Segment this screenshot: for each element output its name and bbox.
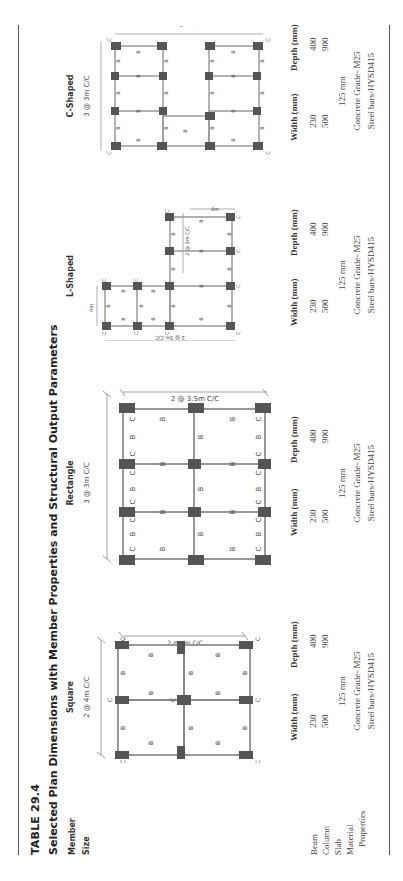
svg-text:C: C: [129, 499, 137, 504]
svg-text:B: B: [135, 109, 141, 113]
svg-text:C: C: [265, 38, 271, 42]
svg-text:B: B: [230, 50, 236, 54]
lshaped-column-depth: 900: [320, 223, 330, 237]
svg-text:C: C: [133, 331, 139, 335]
square-width-label: Width (mm): [289, 693, 299, 741]
svg-text:B: B: [198, 317, 204, 321]
svg-text:B: B: [182, 129, 188, 133]
svg-text:C: C: [265, 151, 271, 155]
svg-text:C: C: [254, 698, 261, 702]
svg-text:B: B: [229, 416, 237, 421]
svg-text:B: B: [159, 416, 167, 421]
table-title: Selected Plan Dimensions with Member Pro…: [47, 324, 60, 855]
svg-text:3 @ 3m C/C: 3 @ 3m C/C: [174, 26, 204, 27]
cshaped-dim-top: 3 @ 3m C/C: [83, 41, 91, 151]
row-header-size: Size: [82, 836, 91, 855]
svg-text:B: B: [255, 486, 263, 491]
bottom-rule: [389, 25, 390, 855]
svg-text:B: B: [170, 304, 176, 308]
svg-text:B: B: [230, 138, 236, 142]
svg-text:B: B: [147, 691, 154, 695]
svg-text:C: C: [106, 151, 112, 155]
svg-text:B: B: [214, 691, 221, 695]
svg-text:B: B: [120, 289, 126, 293]
svg-text:B: B: [198, 219, 204, 223]
svg-text:B: B: [150, 317, 156, 321]
svg-text:C: C: [169, 698, 176, 702]
svg-text:B: B: [255, 531, 263, 536]
svg-text:B: B: [197, 486, 205, 491]
square-column-depth: 900: [320, 635, 330, 649]
cshaped-column-width: 500: [320, 115, 330, 129]
svg-text:B: B: [159, 546, 167, 551]
lshaped-width-label: Width (mm): [289, 278, 299, 326]
svg-text:C: C: [255, 416, 263, 421]
svg-text:B: B: [187, 726, 194, 730]
square-beam-width: 230: [308, 715, 318, 729]
table-number: TABLE 29.4: [29, 784, 42, 855]
square-slab: 125 mm: [337, 621, 347, 761]
rectangle-beam-width: 230: [308, 510, 318, 524]
svg-text:C: C: [119, 637, 126, 641]
top-rule: [18, 25, 19, 855]
svg-text:2 @ 3.5m C/C: 2 @ 3.5m C/C: [171, 395, 219, 403]
svg-text:B: B: [229, 509, 237, 514]
svg-text:B: B: [135, 74, 141, 78]
svg-text:C: C: [254, 637, 261, 641]
svg-text:C: C: [133, 278, 139, 282]
square-beam-depth: 400: [308, 635, 318, 649]
svg-text:B: B: [115, 126, 121, 130]
rectangle-beam-depth: 400: [308, 430, 318, 444]
svg-text:B: B: [147, 741, 154, 745]
svg-text:B: B: [115, 91, 121, 95]
cshaped-beam-depth: 400: [308, 38, 318, 52]
svg-text:B: B: [214, 741, 221, 745]
cshaped-plan-diagram: 3 @ 3m C/C BBB BBBB BBB B BBB BBBB: [95, 26, 275, 156]
svg-text:C: C: [129, 470, 137, 475]
cshaped-material: Concrete Grade- M25: [352, 21, 362, 161]
svg-text:B: B: [120, 317, 126, 321]
svg-text:B: B: [135, 50, 141, 54]
row-labels: Beam Column Slab Material Properties: [308, 811, 368, 856]
svg-text:2 @ 3m C/C: 2 @ 3m C/C: [155, 335, 185, 341]
svg-text:B: B: [259, 59, 265, 63]
svg-text:C: C: [164, 209, 170, 213]
lshaped-material: Concrete Grade- M25: [352, 205, 362, 345]
row-column: Column: [320, 811, 332, 856]
cshaped-properties: Steel bars-HYSD415: [366, 21, 376, 161]
svg-text:B: B: [159, 461, 167, 466]
svg-text:B: B: [230, 109, 236, 113]
svg-text:B: B: [135, 138, 141, 142]
svg-text:B: B: [129, 434, 137, 439]
svg-text:C: C: [106, 698, 113, 702]
svg-text:B: B: [229, 546, 237, 551]
svg-text:C: C: [101, 331, 107, 335]
rectangle-column-depth: 900: [320, 430, 330, 444]
svg-text:B: B: [150, 289, 156, 293]
svg-text:B: B: [129, 531, 137, 536]
square-column-width: 500: [320, 715, 330, 729]
svg-text:B: B: [163, 59, 169, 63]
svg-text:C: C: [164, 331, 170, 335]
rectangle-column-width: 500: [320, 510, 330, 524]
svg-text:B: B: [138, 304, 144, 308]
col-lshaped-name: L-Shaped: [66, 221, 75, 331]
svg-text:B: B: [241, 671, 248, 675]
svg-text:B: B: [226, 232, 232, 236]
svg-text:B: B: [226, 267, 232, 271]
rectangle-slab: 125 mm: [337, 413, 347, 553]
svg-text:B: B: [209, 126, 215, 130]
rectangle-dim-top: 3 @ 3m C/C: [83, 425, 91, 541]
rectangle-plan-diagram: 2 @ 3.5m C/C CBC CBC CBC BBBB BBB BBBB C…: [95, 389, 275, 569]
cshaped-width-label: Width (mm): [289, 93, 299, 141]
svg-text:4m: 4m: [88, 304, 94, 312]
svg-text:4m: 4m: [211, 206, 219, 212]
svg-text:B: B: [229, 461, 237, 466]
svg-text:B: B: [170, 232, 176, 236]
svg-text:C: C: [129, 546, 137, 551]
cshaped-slab: 125 mm: [337, 21, 347, 161]
row-slab: Slab: [332, 811, 344, 856]
svg-text:C: C: [255, 451, 263, 456]
rotated-table-page: TABLE 29.4 Selected Plan Dimensions with…: [0, 0, 403, 881]
svg-text:B: B: [115, 59, 121, 63]
